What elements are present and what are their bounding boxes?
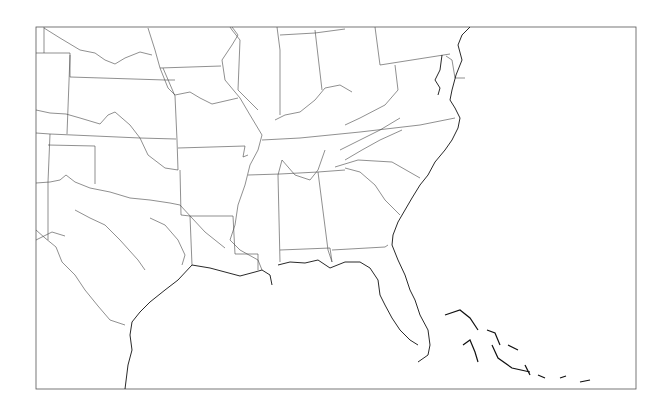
map-frame-border	[36, 27, 636, 389]
state-boundaries	[36, 27, 465, 270]
bahamas-islands	[445, 310, 590, 382]
map-container	[0, 0, 669, 408]
rivers	[36, 27, 402, 325]
outline-map	[0, 0, 669, 408]
coastline	[125, 27, 470, 389]
